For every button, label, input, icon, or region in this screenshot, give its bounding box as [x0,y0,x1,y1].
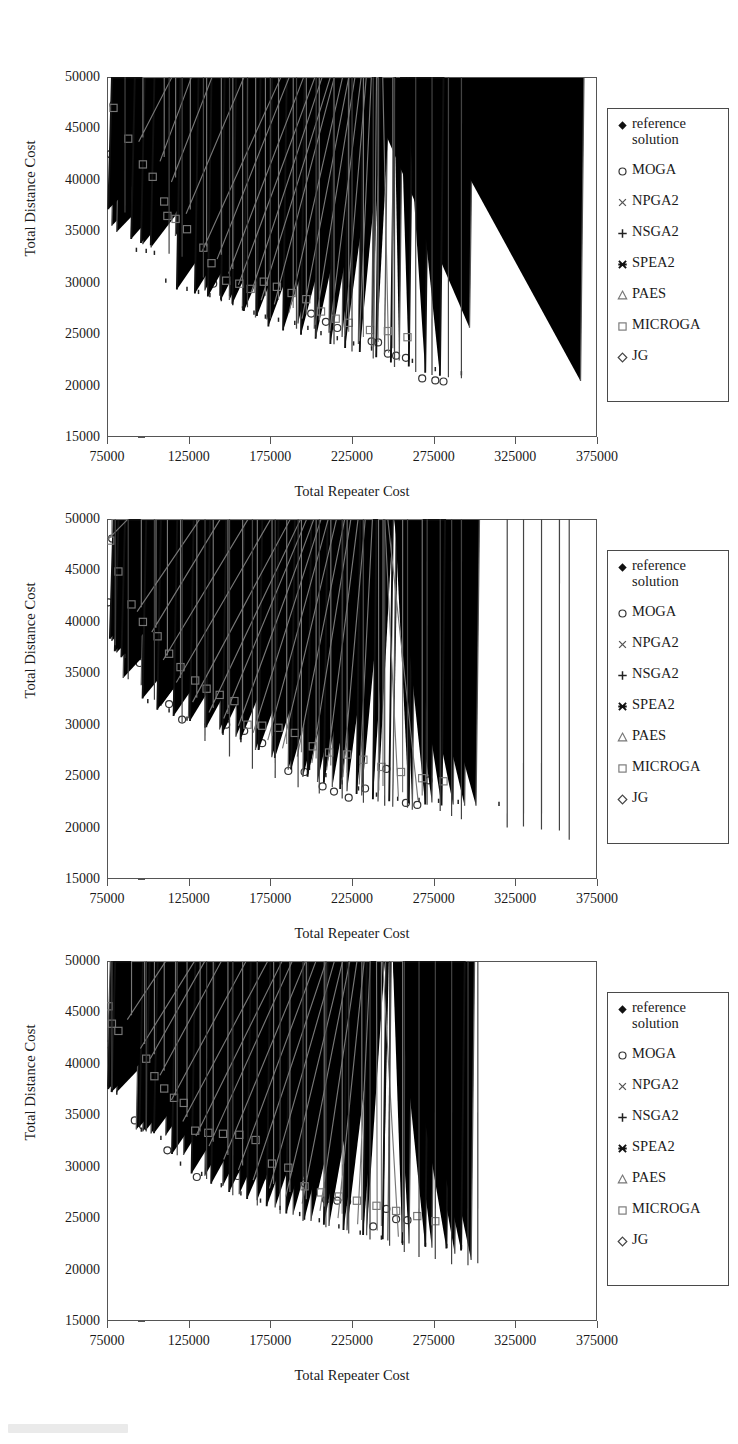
x-tick-mark [352,879,353,886]
legend-label: NPGA2 [630,193,679,209]
x-cross-marker [615,635,630,651]
x-tick-label: 75000 [62,1333,152,1349]
x-tick-label: 375000 [552,891,642,907]
y-tick-label: 50000 [38,511,100,527]
y-axis-ticks: 5000045000400003500030000250002000015000 [38,77,100,437]
legend-label: MOGA [630,162,676,178]
legend-item-reference-solution: reference solution [608,116,728,162]
filled-diamond-marker [615,558,630,574]
x-tick-mark [434,1321,435,1328]
open-triangle-marker [615,1170,630,1186]
x-tick-label: 125000 [144,891,234,907]
legend-label: MOGA [630,604,676,620]
x-tick-mark [270,879,271,886]
y-axis-label: Total Distance Cost [22,551,39,731]
x-tick-label: 125000 [144,449,234,465]
x-tick-mark [597,1321,598,1328]
legend-item-npga2: NPGA2 [608,635,728,666]
filled-diamond-marker [615,116,630,132]
x-tick-mark [434,879,435,886]
y-tick-label: 50000 [38,69,100,85]
open-diamond-marker [615,348,630,364]
open-square-marker [615,317,630,333]
y-tick-label: 30000 [38,1159,100,1175]
legend-item-microga: MICROGA [608,317,728,348]
x-cross-marker [615,1077,630,1093]
x-tick-label: 275000 [389,891,479,907]
legend-label: JG [630,790,648,806]
legend-label: reference solution [630,116,686,147]
x-tick-label: 225000 [307,1333,397,1349]
y-tick-label: 15000 [38,871,100,887]
legend-label: JG [630,1232,648,1248]
legend-label: MICROGA [630,1201,700,1217]
legend-item-nsga2: NSGA2 [608,666,728,697]
x-tick-mark [189,879,190,886]
legend-item-spea2: SPEA2 [608,1139,728,1170]
legend-label: reference solution [630,1000,686,1031]
open-circle-marker [615,1046,630,1062]
open-circle-marker [615,604,630,620]
chart-legend: reference solutionMOGANPGA2NSGA2SPEA2PAE… [607,108,729,402]
figure-page: Total Distance Cost500004500040000350003… [0,0,738,1444]
y-tick-label: 15000 [38,1313,100,1329]
legend-item-jg: JG [608,348,728,379]
x-tick-label: 175000 [225,891,315,907]
chart-legend: reference solutionMOGANPGA2NSGA2SPEA2PAE… [607,550,729,844]
x-cross-marker [615,193,630,209]
x-tick-label: 75000 [62,449,152,465]
x-tick-mark [515,1321,516,1328]
legend-label: JG [630,348,648,364]
legend-label: PAES [630,1170,666,1186]
y-tick-label: 30000 [38,717,100,733]
y-tick-label: 35000 [38,665,100,681]
x-tick-label: 375000 [552,449,642,465]
x-tick-mark [107,437,108,444]
x-axis-ticks: 7500012500017500022500027500032500037500… [107,437,597,483]
y-tick-label: 45000 [38,1004,100,1020]
x-tick-mark [597,437,598,444]
legend-item-microga: MICROGA [608,759,728,790]
legend-label: MICROGA [630,317,700,333]
y-tick-label: 20000 [38,378,100,394]
open-circle-marker [615,162,630,178]
y-tick-label: 50000 [38,953,100,969]
y-tick-label: 45000 [38,120,100,136]
y-tick-label: 30000 [38,275,100,291]
open-triangle-marker [615,286,630,302]
scan-artifact [8,1424,128,1433]
y-tick-label: 35000 [38,1107,100,1123]
plot-area: Total Distance Cost500004500040000350003… [0,40,620,500]
legend-label: NSGA2 [630,224,679,240]
legend-label: PAES [630,286,666,302]
legend-label: PAES [630,728,666,744]
legend-item-reference-solution: reference solution [608,1000,728,1046]
x-tick-label: 325000 [470,1333,560,1349]
legend-item-paes: PAES [608,286,728,317]
legend-item-jg: JG [608,790,728,821]
x-tick-mark [434,437,435,444]
y-axis-label: Total Distance Cost [22,109,39,289]
y-tick-label: 45000 [38,562,100,578]
legend-label: SPEA2 [630,1139,675,1155]
y-tick-label: 35000 [38,223,100,239]
x-tick-mark [189,437,190,444]
plot-area: Total Distance Cost500004500040000350003… [0,482,620,942]
x-tick-label: 225000 [307,891,397,907]
x-tick-label: 175000 [225,449,315,465]
asterisk-star-marker [615,697,630,713]
y-tick-label: 20000 [38,820,100,836]
y-tick-label: 15000 [38,429,100,445]
x-tick-label: 325000 [470,449,560,465]
legend-label: NPGA2 [630,1077,679,1093]
chart-legend: reference solutionMOGANPGA2NSGA2SPEA2PAE… [607,992,729,1286]
x-tick-label: 275000 [389,1333,479,1349]
legend-label: NSGA2 [630,1108,679,1124]
open-square-marker [615,1201,630,1217]
x-tick-mark [270,437,271,444]
x-axis-label: Total Repeater Cost [107,1367,597,1384]
x-tick-mark [515,437,516,444]
x-tick-label: 125000 [144,1333,234,1349]
legend-item-paes: PAES [608,728,728,759]
legend-item-spea2: SPEA2 [608,697,728,728]
